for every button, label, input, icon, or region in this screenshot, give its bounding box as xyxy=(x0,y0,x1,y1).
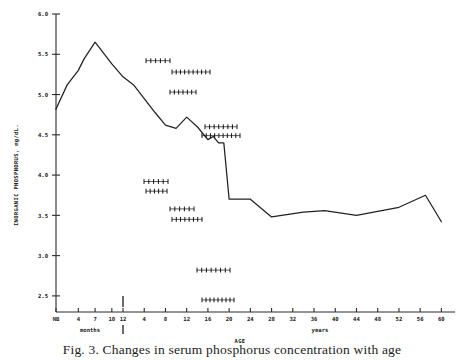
marker-band xyxy=(172,217,202,222)
x-tick-label-years: 40 xyxy=(332,316,339,322)
y-tick-label: 3.5 xyxy=(38,213,48,219)
figure-container: 2.53.03.54.04.55.05.56.0 NB4710124812162… xyxy=(0,0,464,360)
marker-bands xyxy=(144,58,240,302)
x-tick-label-years: 44 xyxy=(353,316,360,322)
x-tick-label-years: 4 xyxy=(143,316,147,322)
series-line-inorganic-phosphorus xyxy=(56,42,441,222)
y-tick-label: 4.0 xyxy=(38,172,49,178)
x-tick-label-years: 60 xyxy=(438,316,445,322)
y-axis-title: INORGANIC PHOSPHORUS, mg/dL. xyxy=(13,124,20,226)
x-tick-label-years: 12 xyxy=(183,316,190,322)
x-tick-label-years: 48 xyxy=(374,316,381,322)
y-tick-label: 5.5 xyxy=(38,51,48,57)
x-tick-label-months: 12 xyxy=(120,316,127,322)
x-tick-label-years: 36 xyxy=(311,316,318,322)
y-tick-label: 4.5 xyxy=(38,132,48,138)
x-tick-label-months: 4 xyxy=(77,316,81,322)
phosphorus-age-chart: 2.53.03.54.04.55.05.56.0 NB4710124812162… xyxy=(0,0,464,360)
data-curve xyxy=(56,42,441,222)
y-tick-label: 3.0 xyxy=(38,253,49,259)
x-tick-label-years: 32 xyxy=(289,316,296,322)
marker-band xyxy=(202,298,234,303)
x-axis: NB4710124812162024283236404448525660 xyxy=(53,296,455,334)
marker-band xyxy=(144,179,168,184)
x-tick-label-years: 8 xyxy=(164,316,168,322)
y-tick-label: 5.0 xyxy=(38,92,49,98)
marker-band xyxy=(205,124,237,129)
x-tick-label-years: 28 xyxy=(268,316,275,322)
marker-band xyxy=(197,268,230,273)
x-tick-label-months: NB xyxy=(53,316,60,322)
y-axis: 2.53.03.54.04.55.05.56.0 xyxy=(38,11,60,312)
x-tick-label-years: 20 xyxy=(226,316,233,322)
marker-band xyxy=(146,189,167,194)
x-tick-label-years: 52 xyxy=(396,316,403,322)
x-tick-label-years: 56 xyxy=(417,316,424,322)
marker-band xyxy=(170,90,196,95)
axis-titles: monthsyearsAGEINORGANIC PHOSPHORUS, mg/d… xyxy=(13,124,328,344)
marker-band xyxy=(170,207,194,212)
x-unit-label-years: years xyxy=(312,327,329,334)
x-tick-label-years: 16 xyxy=(205,316,212,322)
y-tick-label: 2.5 xyxy=(38,293,48,299)
x-unit-label-months: months xyxy=(80,327,100,333)
marker-band xyxy=(202,133,240,138)
y-tick-label: 6.0 xyxy=(38,11,49,17)
x-tick-label-years: 24 xyxy=(247,316,254,322)
x-tick-label-months: 10 xyxy=(108,316,115,322)
marker-band xyxy=(172,70,210,75)
marker-band xyxy=(146,58,170,63)
figure-caption: Fig. 3. Changes in serum phosphorus conc… xyxy=(0,342,464,358)
x-tick-label-months: 7 xyxy=(93,316,96,322)
